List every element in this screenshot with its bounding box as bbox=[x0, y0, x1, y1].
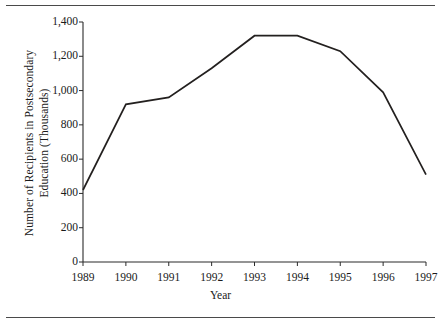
figure-bottom-rule bbox=[6, 317, 435, 318]
x-axis-title: Year bbox=[0, 289, 441, 301]
chart-canvas bbox=[0, 8, 441, 308]
data-series-line bbox=[83, 36, 426, 190]
axes-group bbox=[83, 22, 426, 262]
figure-container: Number of Recipients in Postsecondary Ed… bbox=[0, 0, 441, 327]
x-axis-tick-marks bbox=[83, 262, 426, 266]
plot-area: Number of Recipients in Postsecondary Ed… bbox=[0, 8, 441, 308]
y-axis-tick-marks bbox=[79, 22, 83, 262]
figure-top-rule bbox=[6, 5, 435, 6]
